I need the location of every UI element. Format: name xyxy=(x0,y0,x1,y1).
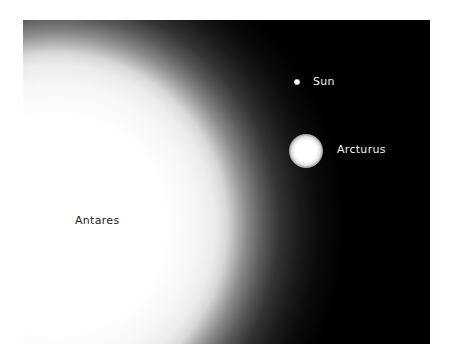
arcturus-star xyxy=(289,134,323,168)
sun-label: Sun xyxy=(313,75,335,88)
sun-star xyxy=(294,79,300,85)
star-comparison-panel xyxy=(23,20,430,344)
arcturus-label: Arcturus xyxy=(337,143,386,156)
antares-label: Antares xyxy=(75,214,119,227)
antares-star xyxy=(23,20,430,344)
